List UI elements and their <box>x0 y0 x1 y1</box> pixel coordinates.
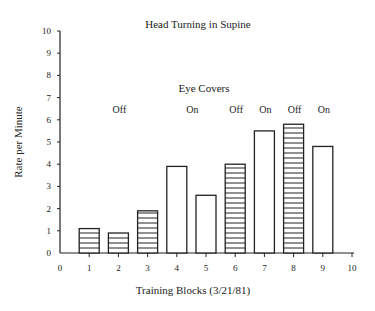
eye-cover-label: On <box>259 104 271 115</box>
bar-3 <box>138 211 158 253</box>
y-tick-label: 7 <box>47 93 52 103</box>
chart-title: Head Turning in Supine <box>145 18 251 30</box>
bar-6 <box>225 164 245 253</box>
y-tick-label: 0 <box>47 248 52 258</box>
bar-9 <box>313 146 333 253</box>
x-tick-label: 9 <box>321 263 326 273</box>
y-tick-label: 6 <box>47 115 52 125</box>
x-tick-label: 6 <box>233 263 238 273</box>
eye-cover-label: Off <box>288 104 302 115</box>
bar-8 <box>284 124 304 253</box>
y-tick-label: 4 <box>47 159 52 169</box>
eye-cover-label: Off <box>113 104 127 115</box>
x-tick-label: 0 <box>58 263 63 273</box>
bar-chart: Head Turning in Supine Rate per Minute T… <box>0 0 375 311</box>
y-tick-label: 2 <box>47 204 52 214</box>
y-tick-label: 9 <box>47 48 52 58</box>
eye-cover-label: On <box>318 104 330 115</box>
x-tick-label: 7 <box>262 263 267 273</box>
x-tick-label: 1 <box>87 263 92 273</box>
x-tick-label: 8 <box>291 263 296 273</box>
y-tick-label: 10 <box>42 26 52 36</box>
y-tick-label: 1 <box>47 226 52 236</box>
bar-1 <box>79 229 99 253</box>
x-axis-label: Training Blocks (3/21/81) <box>136 284 251 297</box>
eye-covers-header: Eye Covers <box>178 82 229 94</box>
x-tick-label: 2 <box>116 263 121 273</box>
bar-7 <box>254 131 274 253</box>
bar-4 <box>167 166 187 253</box>
y-tick-label: 8 <box>47 70 52 80</box>
y-tick-label: 5 <box>47 137 52 147</box>
x-tick-label: 3 <box>145 263 150 273</box>
x-tick-label: 5 <box>204 263 209 273</box>
x-tick-label: 4 <box>175 263 180 273</box>
annotations: OffOnOffOnOffOn <box>113 104 330 115</box>
bar-5 <box>196 195 216 253</box>
x-tick-label: 10 <box>348 263 358 273</box>
eye-cover-label: On <box>186 104 198 115</box>
y-axis-label: Rate per Minute <box>12 106 24 178</box>
eye-cover-label: Off <box>229 104 243 115</box>
bars <box>79 124 333 253</box>
bar-2 <box>108 233 128 253</box>
y-tick-label: 3 <box>47 181 52 191</box>
